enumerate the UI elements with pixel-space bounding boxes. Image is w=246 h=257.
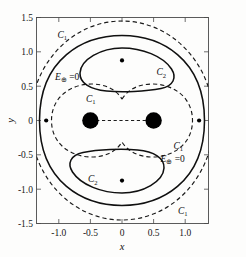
y-tick-label-1.0: 1.0 xyxy=(21,47,33,57)
x-tick-label-1.0: 1.0 xyxy=(179,228,191,238)
curve-c2-lower xyxy=(70,149,164,193)
x-tick-label-0: 0 xyxy=(120,228,125,238)
zero-velocity-curve-plot: 1.5 1.0 0.5 0 -0.5 -1.0 -1.5 -1.0 -0.5 0… xyxy=(0,0,246,257)
primary-left-marker xyxy=(82,112,98,128)
y-axis-title: y xyxy=(5,118,16,124)
label-c2-lower: C2 xyxy=(88,174,98,186)
x-tick-label-0.5: 0.5 xyxy=(148,228,160,238)
label-c1-center-top: C1 xyxy=(86,94,96,106)
label-c2-upper: C2 xyxy=(157,67,167,79)
label-c1-top-left: C1 xyxy=(58,30,68,42)
y-tick-label-minus1.0: -1.0 xyxy=(18,185,33,195)
y-tick-label-1.5: 1.5 xyxy=(21,13,33,23)
y-tick-label-0.5: 0.5 xyxy=(21,82,33,92)
label-e-zero-left: E⊕ =0 xyxy=(54,72,80,84)
figure-container: 1.5 1.0 0.5 0 -0.5 -1.0 -1.5 -1.0 -0.5 0… xyxy=(0,0,246,257)
lagrange-bottom-marker xyxy=(120,179,124,183)
lagrange-left-marker xyxy=(44,118,48,122)
label-c1-right: C1 xyxy=(174,141,184,153)
primary-right-marker xyxy=(145,112,161,128)
x-axis-title: x xyxy=(119,241,125,252)
y-tick-label-minus0.5: -0.5 xyxy=(18,150,33,160)
lagrange-top-marker xyxy=(120,58,124,62)
y-tick-label-0: 0 xyxy=(28,116,33,126)
y-tick-label-minus1.5: -1.5 xyxy=(18,219,33,229)
x-tick-label-minus1.0: -1.0 xyxy=(51,228,66,238)
lagrange-right-marker xyxy=(197,118,201,122)
x-tick-label-minus0.5: -0.5 xyxy=(83,228,98,238)
label-c1-bottom-right: C1 xyxy=(178,206,188,218)
